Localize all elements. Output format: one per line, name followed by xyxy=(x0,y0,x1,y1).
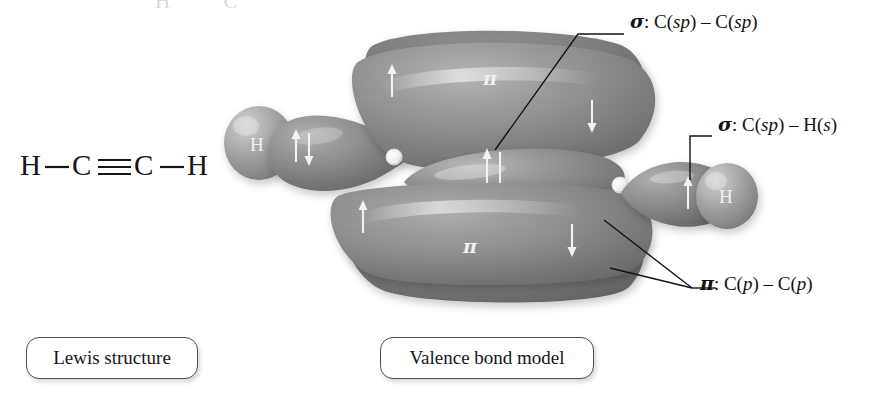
pi-label-top: π xyxy=(482,67,498,89)
carbon-label-left: C xyxy=(387,148,398,167)
hydrogen-label-left: H xyxy=(250,134,264,155)
annotation-pi-cp: π: C(p) – C(p) xyxy=(700,272,813,295)
sigma-symbol-ch: σ xyxy=(718,113,732,135)
sigma-symbol-cc: σ xyxy=(630,10,644,32)
figure-root: H C H C C H xyxy=(0,0,895,412)
hydrogen-sphere-right: H xyxy=(696,163,758,229)
annotation-pi-cp-text: : C(p) – C(p) xyxy=(714,273,813,294)
annotation-sigma-ch: σ: C(sp) – H(s) xyxy=(718,113,837,136)
hydrogen-label-right: H xyxy=(719,186,733,207)
caption-lewis-structure: Lewis structure xyxy=(26,337,198,379)
caption-valence-bond-model: Valence bond model xyxy=(380,337,594,379)
annotation-sigma-ch-text: : C(sp) – H(s) xyxy=(732,114,837,135)
pi-label-bottom: π xyxy=(462,235,478,257)
annotation-sigma-cc-text: : C(sp) – C(sp) xyxy=(644,11,758,32)
pi-symbol-cp: π xyxy=(700,272,714,294)
pi-lobe-bottom-front: π xyxy=(331,183,653,285)
annotation-sigma-cc: σ: C(sp) – C(sp) xyxy=(630,10,758,33)
